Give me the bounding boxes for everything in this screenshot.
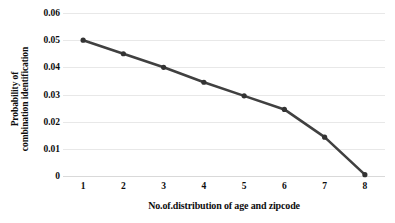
y-axis-tick-label: 0.03 [22, 90, 60, 100]
y-axis-title-line-1: Probability of [10, 72, 20, 127]
y-axis-tick-label: 0.01 [22, 144, 60, 154]
y-axis-tick-label: 0 [22, 171, 60, 181]
data-point-marker [201, 80, 206, 85]
y-axis-tick-label: 0.05 [22, 35, 60, 45]
data-point-marker [242, 93, 247, 98]
x-axis-tick-label: 3 [161, 181, 166, 191]
x-axis-tick-label: 2 [121, 181, 126, 191]
data-point-marker [121, 51, 126, 56]
series-markers [81, 38, 368, 178]
series-layer [63, 13, 385, 176]
series-line [83, 40, 365, 174]
data-point-marker [81, 38, 86, 43]
x-axis-tick-label: 7 [322, 181, 327, 191]
x-axis-tick-label: 6 [282, 181, 287, 191]
x-axis-tick-label: 8 [363, 181, 368, 191]
x-axis-title: No.of.distribution of age and zipcode [63, 200, 385, 211]
x-axis-tick-label: 1 [81, 181, 86, 191]
data-point-marker [282, 107, 287, 112]
data-point-marker [322, 135, 327, 140]
data-point-marker [362, 172, 367, 177]
gridline [63, 176, 385, 177]
line-chart: Probability of combination identificatio… [0, 0, 395, 223]
x-axis-tick-label: 4 [202, 181, 207, 191]
y-axis-tick-label: 0.04 [22, 62, 60, 72]
x-axis-tick-label: 5 [242, 181, 247, 191]
x-axis-tick-labels: 12345678 [0, 181, 395, 197]
y-axis-tick-label: 0.02 [22, 117, 60, 127]
y-axis-tick-label: 0.06 [22, 8, 60, 18]
data-point-marker [161, 65, 166, 70]
plot-area [63, 13, 385, 176]
